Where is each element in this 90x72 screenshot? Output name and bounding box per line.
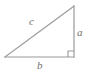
side-label-c: c [29,16,34,27]
right-angle-marker-icon [68,51,74,57]
side-label-a: a [77,27,83,38]
side-label-b: b [37,60,43,71]
right-triangle-figure: a b c [0,0,90,72]
hypotenuse-line [5,6,74,57]
